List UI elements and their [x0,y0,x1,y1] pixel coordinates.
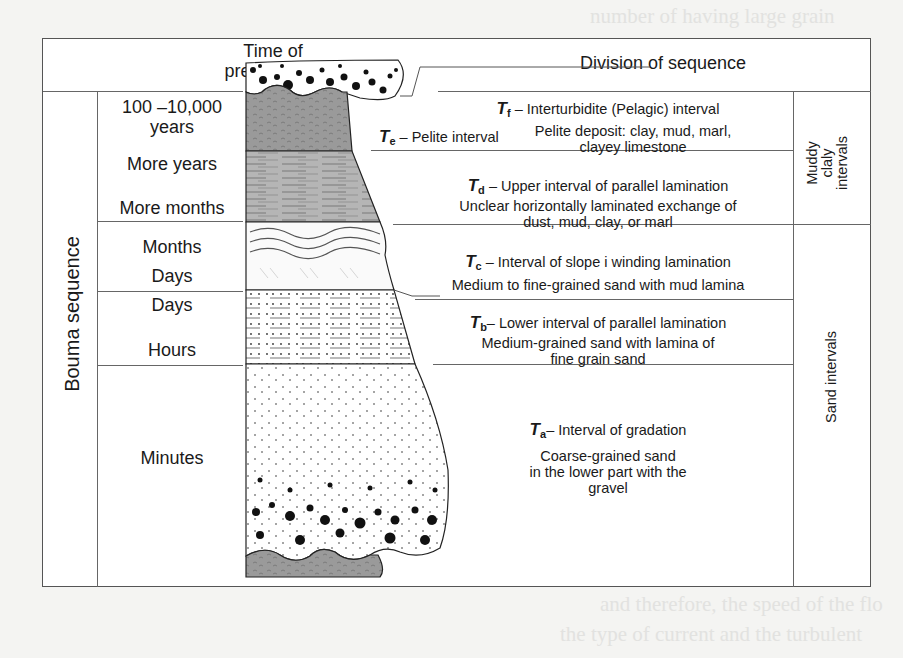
stratigraphic-column [0,0,903,658]
